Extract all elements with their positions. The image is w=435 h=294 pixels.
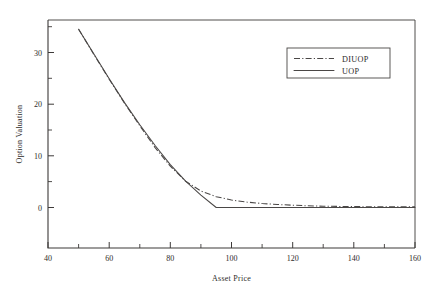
- legend[interactable]: DIUOP UOP: [287, 48, 390, 78]
- x-ticklabel-140: 140: [348, 254, 360, 263]
- legend-box: [287, 48, 390, 78]
- y-ticklabel-0: 0: [38, 204, 42, 213]
- legend-label-uop: UOP: [342, 67, 359, 76]
- x-ticklabel-160: 160: [409, 254, 421, 263]
- y-ticklabel-30: 30: [34, 49, 42, 58]
- option-valuation-chart: 0 10 20 30 40 60 80 100 120: [0, 0, 435, 294]
- figure-background: [0, 0, 435, 294]
- x-ticklabel-80: 80: [166, 254, 174, 263]
- x-axis-title: Asset Price: [212, 274, 251, 283]
- x-ticklabel-40: 40: [44, 254, 52, 263]
- y-ticklabel-20: 20: [34, 100, 42, 109]
- legend-label-diuop: DIUOP: [342, 55, 369, 64]
- y-axis-title: Option Valuation: [15, 105, 24, 164]
- x-ticklabel-120: 120: [287, 254, 299, 263]
- y-ticklabel-10: 10: [34, 152, 42, 161]
- x-ticklabel-100: 100: [226, 254, 238, 263]
- x-ticklabel-60: 60: [105, 254, 113, 263]
- chart-figure: 0 10 20 30 40 60 80 100 120: [0, 0, 435, 294]
